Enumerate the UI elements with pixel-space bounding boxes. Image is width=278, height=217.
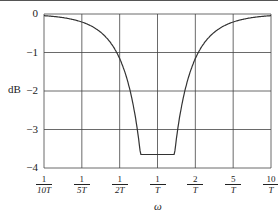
y-tick-label: −1 <box>16 46 38 58</box>
y-axis-label: dB <box>8 83 21 95</box>
grid-lines <box>44 14 271 168</box>
x-tick-label: 2T <box>183 174 207 196</box>
x-tick-label: 10T <box>259 174 278 196</box>
y-tick-label: −4 <box>16 161 38 173</box>
y-tick-label: 0 <box>16 7 38 19</box>
x-tick-label: 15T <box>70 174 94 196</box>
y-tick-label: −3 <box>16 123 38 135</box>
x-tick-label: 1T <box>146 174 170 196</box>
x-tick-label: 12T <box>108 174 132 196</box>
x-tick-label: 110T <box>32 174 56 196</box>
x-tick-label: 5T <box>221 174 245 196</box>
x-axis-label: ω <box>154 200 162 212</box>
